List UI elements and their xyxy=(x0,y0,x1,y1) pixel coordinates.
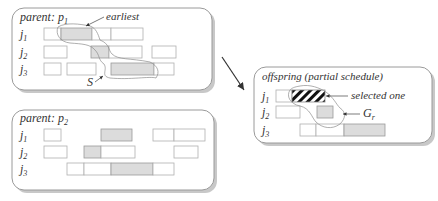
operation-box-gray xyxy=(84,146,101,158)
operation-box xyxy=(152,46,176,58)
operation-box xyxy=(67,163,84,175)
operation-box-hatched xyxy=(292,90,325,102)
panel-offspring: offspring (partial schedule) j1j2j3 sele… xyxy=(254,67,435,146)
S-label: S xyxy=(87,75,93,89)
operation-box xyxy=(92,28,111,40)
operation-box xyxy=(174,146,198,158)
operation-box xyxy=(300,124,316,136)
panel-title: parent: p1 xyxy=(19,10,68,26)
operation-box xyxy=(44,46,67,58)
operation-box xyxy=(111,28,143,40)
diagram-canvas: parent: p1 j1j2j3 earliest S parent: p2 … xyxy=(0,0,438,201)
operation-box-gray xyxy=(317,106,333,118)
operation-box xyxy=(153,163,174,175)
operation-box xyxy=(109,46,142,58)
operation-box xyxy=(154,63,174,75)
panel-parent-p2: parent: p2 j1j2j3 xyxy=(12,110,217,193)
operation-box-gray xyxy=(61,28,92,40)
operation-box-gray xyxy=(91,46,109,58)
operation-box xyxy=(101,146,135,158)
operation-box xyxy=(174,129,205,141)
operation-box-gray xyxy=(101,129,132,141)
crossover-arrow xyxy=(222,57,244,90)
selected-one-label: selected one xyxy=(351,89,405,101)
operation-box-gray xyxy=(111,163,153,175)
panel-title: offspring (partial schedule) xyxy=(262,70,383,83)
operation-box xyxy=(44,63,61,75)
earliest-label: earliest xyxy=(106,10,140,22)
operation-box xyxy=(44,146,67,158)
operation-box-gray xyxy=(344,124,385,136)
operation-box xyxy=(276,106,300,118)
operation-box xyxy=(44,129,61,141)
operation-box-gray xyxy=(111,63,154,75)
operation-box xyxy=(276,90,292,102)
panel-parent-p1: parent: p1 j1j2j3 earliest S xyxy=(12,8,215,93)
operation-box xyxy=(44,28,61,40)
operation-box xyxy=(316,124,344,136)
panel-title: parent: p2 xyxy=(19,111,68,127)
operation-box xyxy=(67,63,96,75)
operation-box xyxy=(153,129,174,141)
operation-box xyxy=(84,163,111,175)
